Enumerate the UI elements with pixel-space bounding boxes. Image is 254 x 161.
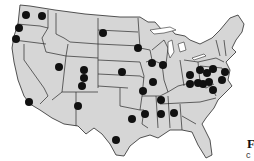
location-marker xyxy=(112,136,120,144)
location-marker xyxy=(38,12,46,20)
location-marker xyxy=(157,96,165,104)
location-marker xyxy=(22,11,30,19)
location-marker xyxy=(157,110,165,118)
location-marker xyxy=(209,65,217,73)
location-marker xyxy=(78,82,86,90)
location-marker xyxy=(186,80,194,88)
location-marker xyxy=(218,76,226,84)
location-marker xyxy=(186,71,194,79)
location-marker xyxy=(139,87,147,95)
location-marker xyxy=(221,68,229,76)
location-marker xyxy=(141,110,149,118)
caption-subtext: c xyxy=(246,151,251,160)
location-marker xyxy=(55,63,63,71)
location-marker xyxy=(159,61,167,69)
location-marker xyxy=(118,68,126,76)
location-marker xyxy=(12,35,20,43)
location-marker xyxy=(25,98,33,106)
us-map xyxy=(0,0,254,161)
location-marker xyxy=(170,109,178,117)
location-marker xyxy=(148,59,156,67)
location-marker xyxy=(80,74,88,82)
location-marker xyxy=(15,24,23,32)
location-marker xyxy=(196,66,204,74)
location-marker xyxy=(205,78,213,86)
location-marker xyxy=(128,115,136,123)
location-marker xyxy=(209,86,217,94)
location-marker xyxy=(149,78,157,86)
location-marker xyxy=(80,66,88,74)
location-marker xyxy=(99,29,107,37)
location-marker xyxy=(134,44,142,52)
location-marker xyxy=(74,102,82,110)
caption-heading: F xyxy=(247,137,254,150)
